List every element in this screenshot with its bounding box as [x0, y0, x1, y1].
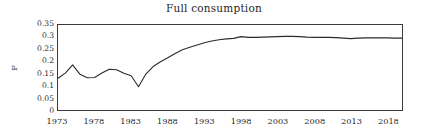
- x-tick-label: 2003: [258, 116, 298, 126]
- y-tick-label: 0.25: [26, 45, 54, 53]
- data-series-line: [58, 25, 402, 110]
- chart-figure: Full consumption F 0.35 0.3 0.25 0.2 0.1…: [0, 0, 428, 138]
- y-tick-label: 0: [26, 107, 54, 115]
- x-tick-label: 1993: [184, 116, 224, 126]
- y-axis-label: F: [7, 60, 23, 76]
- chart-title: Full consumption: [0, 2, 428, 14]
- y-tick-label: 0.3: [26, 32, 54, 40]
- x-tick-label: 1998: [221, 116, 261, 126]
- x-tick-label: 2018: [368, 116, 408, 126]
- x-tick-label: 1988: [147, 116, 187, 126]
- x-tick-label: 1983: [111, 116, 151, 126]
- y-tick-label: 0.05: [26, 95, 54, 103]
- x-tick-label: 2013: [332, 116, 372, 126]
- plot-area: [57, 24, 403, 111]
- y-tick-label: 0.1: [26, 82, 54, 90]
- x-tick-label: 2008: [295, 116, 335, 126]
- y-tick-label: 0.2: [26, 57, 54, 65]
- x-tick-label: 1973: [37, 116, 77, 126]
- y-tick-label: 0.35: [26, 20, 54, 28]
- x-tick-label: 1978: [74, 116, 114, 126]
- y-tick-label: 0.15: [26, 70, 54, 78]
